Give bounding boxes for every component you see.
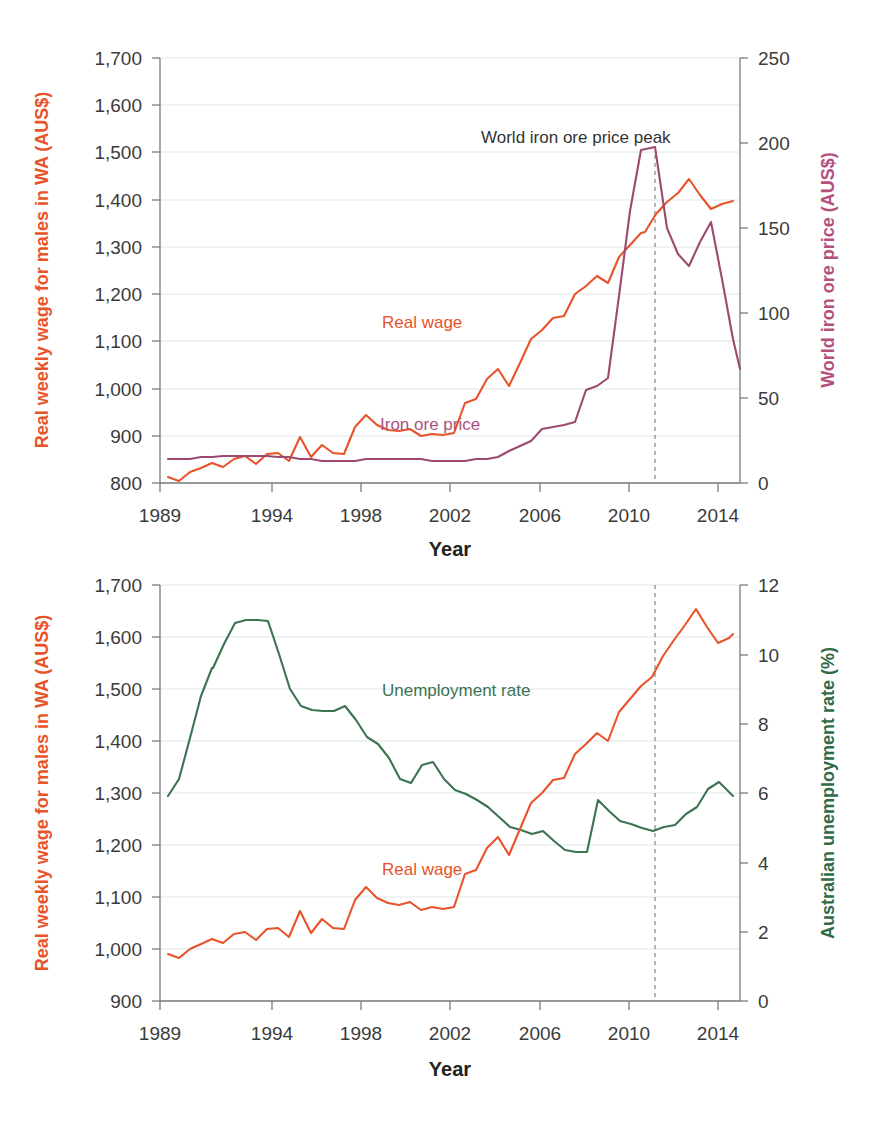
top-y-left-axis-title: Real weekly wage for males in WA (AUS$) — [32, 92, 52, 448]
top-x-tick-2010: 2010 — [608, 505, 650, 526]
top-chart-panel: 800 900 1,000 1,100 1,200 1,300 1,400 1,… — [0, 0, 874, 560]
top-y-left-tick-900: 900 — [110, 426, 142, 447]
bottom-series-label-unemployment-rate: Unemployment rate — [382, 681, 530, 700]
top-y-left-tick-800: 800 — [110, 473, 142, 494]
top-chart-svg: 800 900 1,000 1,100 1,200 1,300 1,400 1,… — [0, 0, 874, 560]
chart-page: 800 900 1,000 1,100 1,200 1,300 1,400 1,… — [0, 0, 874, 1125]
bottom-y-left-ticks — [152, 585, 160, 1001]
bottom-series-label-real-wage: Real wage — [382, 860, 462, 879]
top-x-tick-2006: 2006 — [519, 505, 561, 526]
bottom-y-right-tick-12: 12 — [758, 575, 779, 596]
top-y-right-tick-0: 0 — [758, 473, 769, 494]
top-y-right-tick-100: 100 — [758, 303, 790, 324]
bottom-gridlines — [160, 585, 740, 1001]
bottom-x-tick-2006: 2006 — [519, 1023, 561, 1044]
top-y-left-tick-1200: 1,200 — [94, 284, 142, 305]
top-x-tick-1989: 1989 — [139, 505, 181, 526]
bottom-y-right-tick-6: 6 — [758, 783, 769, 804]
bottom-x-tick-2014: 2014 — [697, 1023, 740, 1044]
top-y-left-tick-1400: 1,400 — [94, 190, 142, 211]
bottom-unemployment-rate-line — [168, 620, 733, 852]
bottom-chart-panel: 900 1,000 1,100 1,200 1,300 1,400 1,500 … — [0, 560, 874, 1125]
bottom-real-wage-line — [168, 609, 733, 958]
bottom-y-left-tick-1700: 1,700 — [94, 575, 142, 596]
top-series-label-real-wage: Real wage — [382, 313, 462, 332]
top-series-label-iron-ore-price: Iron ore price — [380, 415, 480, 434]
bottom-chart-svg: 900 1,000 1,100 1,200 1,300 1,400 1,500 … — [0, 560, 874, 1125]
bottom-y-left-tick-1600: 1,600 — [94, 627, 142, 648]
bottom-y-left-tick-1300: 1,300 — [94, 783, 142, 804]
bottom-y-right-tick-2: 2 — [758, 922, 769, 943]
bottom-x-ticks — [160, 1001, 718, 1010]
top-y-left-tick-1100: 1,100 — [94, 331, 142, 352]
top-y-right-axis-title: World iron ore price (AUS$) — [818, 152, 838, 388]
bottom-y-right-tick-8: 8 — [758, 714, 769, 735]
iron-ore-peak-annotation: World iron ore price peak — [481, 128, 671, 147]
bottom-y-right-axis-title: Australian unemployment rate (%) — [818, 647, 838, 939]
top-x-tick-2002: 2002 — [429, 505, 471, 526]
top-y-right-tick-250: 250 — [758, 48, 790, 69]
bottom-y-right-tick-4: 4 — [758, 853, 769, 874]
top-x-ticks — [160, 483, 718, 492]
top-y-right-tick-150: 150 — [758, 218, 790, 239]
bottom-x-tick-2010: 2010 — [608, 1023, 650, 1044]
top-y-left-tick-1600: 1,600 — [94, 95, 142, 116]
bottom-x-tick-1998: 1998 — [340, 1023, 382, 1044]
bottom-x-tick-2002: 2002 — [429, 1023, 471, 1044]
bottom-y-left-tick-1500: 1,500 — [94, 679, 142, 700]
top-y-left-tick-1700: 1,700 — [94, 48, 142, 69]
top-y-left-ticks — [152, 58, 160, 483]
top-x-axis-title: Year — [429, 538, 471, 560]
bottom-y-right-tick-0: 0 — [758, 991, 769, 1012]
bottom-x-axis-title: Year — [429, 1058, 471, 1080]
top-y-left-tick-1300: 1,300 — [94, 237, 142, 258]
top-x-tick-1998: 1998 — [340, 505, 382, 526]
top-y-right-tick-50: 50 — [758, 388, 779, 409]
bottom-x-tick-1989: 1989 — [139, 1023, 181, 1044]
bottom-y-left-tick-1400: 1,400 — [94, 731, 142, 752]
bottom-y-right-ticks — [740, 585, 748, 1001]
top-iron-ore-price-line — [168, 147, 740, 461]
bottom-x-tick-1994: 1994 — [251, 1023, 294, 1044]
top-x-tick-2014: 2014 — [697, 505, 740, 526]
bottom-y-right-tick-10: 10 — [758, 645, 779, 666]
bottom-y-left-axis-title: Real weekly wage for males in WA (AUS$) — [32, 615, 52, 971]
top-y-left-tick-1000: 1,000 — [94, 379, 142, 400]
bottom-y-left-tick-1200: 1,200 — [94, 835, 142, 856]
bottom-y-left-tick-1100: 1,100 — [94, 887, 142, 908]
top-y-left-tick-1500: 1,500 — [94, 142, 142, 163]
top-y-right-ticks — [740, 58, 748, 483]
top-x-tick-1994: 1994 — [251, 505, 294, 526]
bottom-y-left-tick-900: 900 — [110, 991, 142, 1012]
top-y-right-tick-200: 200 — [758, 133, 790, 154]
bottom-y-left-tick-1000: 1,000 — [94, 939, 142, 960]
